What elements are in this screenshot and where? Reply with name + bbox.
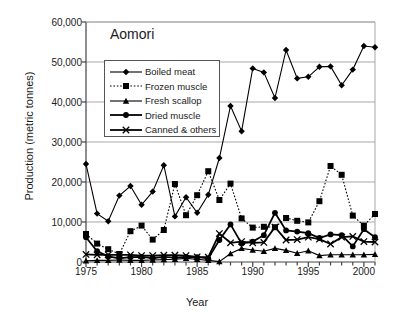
data-point [272,245,278,251]
plot-area [0,0,394,321]
data-point [128,254,134,260]
legend-item: Dried muscle [109,108,200,123]
data-point [94,210,100,216]
data-point [205,256,211,262]
data-point [239,241,245,247]
data-point [372,234,378,240]
data-point [205,168,211,174]
data-point [272,224,278,230]
legend-label: Fresh scallop [145,95,202,106]
legend-label: Frozen muscle [145,81,207,92]
data-point [250,65,256,71]
chart-figure: Aomori Production (metric tonnes) Year 0… [0,0,394,321]
data-point [194,254,200,260]
data-point [328,163,334,169]
data-point [261,69,267,75]
diamond-marker-icon [109,66,143,78]
data-point [272,210,278,216]
data-point [227,250,233,256]
data-point [305,248,311,254]
data-point [283,215,289,221]
data-point [105,254,111,260]
data-point [305,230,311,236]
data-point [150,255,156,261]
legend-item: Fresh scallop [109,93,202,108]
data-point [194,192,200,198]
data-point [238,128,244,134]
data-point [294,75,300,81]
cross-marker-icon [109,124,143,136]
data-point [261,224,267,230]
data-point [250,225,256,231]
data-point [161,227,167,233]
data-point [227,103,233,109]
data-point [123,83,129,89]
data-point [361,226,367,232]
legend-label: Boiled meat [145,66,195,77]
data-point [83,161,89,167]
data-point [116,256,122,262]
data-point [350,213,356,219]
data-point [105,218,111,224]
data-point [139,254,145,260]
data-point [172,255,178,261]
data-point [161,162,167,168]
data-point [172,213,178,219]
data-point [294,229,300,235]
data-point [172,181,178,187]
data-point [305,219,311,225]
data-point [94,241,100,247]
data-point [328,232,334,238]
legend-item: Frozen muscle [109,79,207,94]
data-point [228,222,234,228]
chart-legend: Boiled meatFrozen muscleFresh scallopDri… [104,60,220,137]
data-point [216,197,222,203]
data-point [183,212,189,218]
data-point [339,172,345,178]
data-point [239,215,245,221]
data-point [161,254,167,260]
data-point [205,192,211,198]
data-point [216,155,222,161]
data-point [216,237,222,243]
data-point [283,228,289,234]
data-point [123,112,129,118]
legend-item: Boiled meat [109,64,195,79]
legend-label: Dried muscle [145,110,200,121]
data-point [250,239,256,245]
data-point [283,47,289,53]
data-point [150,237,156,243]
legend-item: Canned & others [109,122,216,137]
data-point [372,44,378,50]
data-point [127,228,133,234]
data-point [317,235,323,241]
series-line [86,166,375,254]
data-point [183,254,189,260]
data-point [261,232,267,238]
data-point [339,232,345,238]
data-point [327,63,333,69]
data-point [105,246,111,252]
data-point [350,244,356,250]
data-point [123,68,129,74]
circle-marker-icon [109,109,143,121]
data-point [294,218,300,224]
data-point [83,234,89,240]
data-point [316,198,322,204]
data-point [272,95,278,101]
triangle-marker-icon [109,95,143,107]
data-point [94,248,100,254]
data-point [361,43,367,49]
legend-label: Canned & others [145,124,216,135]
square-marker-icon [109,80,143,92]
data-point [228,181,234,187]
data-point [372,211,378,217]
data-point [139,223,145,229]
